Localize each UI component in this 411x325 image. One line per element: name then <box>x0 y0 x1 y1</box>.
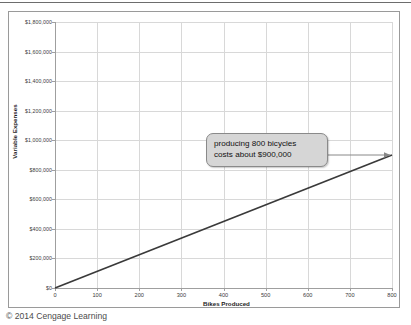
callout-line-1: producing 800 bicycles <box>214 139 320 150</box>
copyright-credit: © 2014 Cengage Learning <box>6 311 107 321</box>
callout-line-2: costs about $900,000 <box>214 150 320 161</box>
annotation-callout: producing 800 bicycles costs about $900,… <box>206 133 328 167</box>
